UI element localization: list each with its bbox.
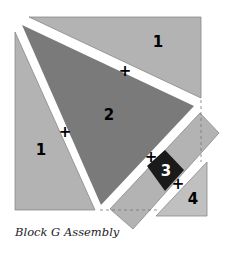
caption: Block G Assembly xyxy=(15,225,119,239)
label-1-top: 1 xyxy=(153,33,163,51)
plus-mark: + xyxy=(145,148,158,166)
label-3: 3 xyxy=(161,162,171,180)
label-1-left: 1 xyxy=(36,141,46,159)
plus-mark: + xyxy=(59,123,72,141)
block-assembly-diagram: + + + + 1 2 1 3 4 xyxy=(0,0,231,254)
label-2: 2 xyxy=(104,106,114,124)
label-4: 4 xyxy=(188,190,198,208)
plus-mark: + xyxy=(119,62,132,80)
plus-mark: + xyxy=(172,175,185,193)
